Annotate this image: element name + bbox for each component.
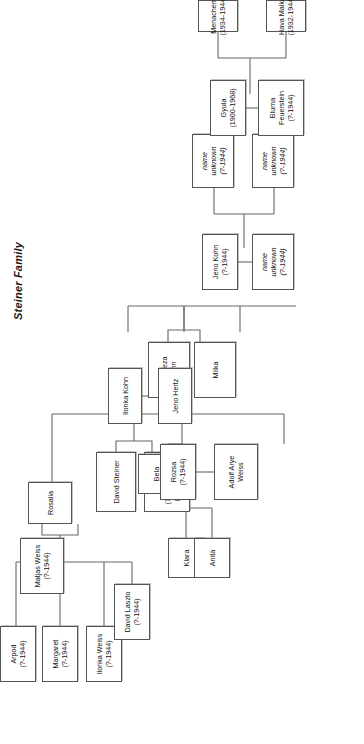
node-jeno-hertz[interactable]: Jeno Hertz: [158, 368, 192, 424]
node-name-2: unknown: [209, 147, 218, 176]
node-dates: (?-1944): [278, 248, 287, 275]
node-dates: (1934-1944): [218, 0, 227, 36]
node-dates: (?-1944): [104, 640, 113, 667]
node-name: Milka: [211, 362, 220, 379]
node-name-2: Weiss: [236, 462, 245, 481]
node-name: Matjas Weiss: [33, 545, 42, 588]
node-dates: (?-1944): [278, 147, 287, 174]
node-anita[interactable]: Anita: [194, 538, 230, 578]
node-menachem[interactable]: Menachem (1934-1944): [198, 0, 238, 32]
node-hava-malka[interactable]: Hava Malka (1932-1944): [266, 0, 306, 32]
node-dates: (?-1944): [42, 552, 51, 579]
node-ilonka-kohn[interactable]: Ilonka Kohn: [108, 368, 142, 424]
node-dates: (?-1944): [286, 94, 295, 121]
node-name-2: Feuerstein: [277, 91, 286, 125]
node-matjas-weiss[interactable]: Matjas Weiss (?-1944): [20, 538, 64, 594]
node-name: Adolf Arye: [227, 456, 236, 489]
node-name: Ilonka Weiss: [95, 634, 104, 675]
node-dates: (?-1944): [220, 248, 229, 275]
node-rozsa[interactable]: Rozsa (?-1944): [160, 444, 196, 500]
node-name: Menachem: [209, 0, 218, 34]
node-bluma-feuerstein[interactable]: Bluma Feuerstein (?-1944): [258, 80, 304, 136]
node-dates: (1900-1968): [228, 88, 237, 127]
node-jeno-kohn[interactable]: Jeno Kohn (?-1944): [202, 234, 238, 290]
node-david-laszlo[interactable]: David Laszlo (?-1944): [114, 584, 150, 640]
node-name: name: [200, 152, 209, 170]
node-adolf-arye-weiss[interactable]: Adolf Arye Weiss: [214, 444, 258, 500]
node-name: Jeno Hertz: [171, 379, 180, 414]
node-name: Klara: [182, 550, 191, 567]
node-name: Ilonka Kohn: [121, 377, 130, 415]
node-name: Jeno Kohn: [211, 245, 220, 279]
node-name: Rozsa: [169, 462, 178, 482]
node-name: name: [260, 152, 269, 170]
node-dates: (?-1944): [132, 598, 141, 625]
node-dates: (1932-1944): [286, 0, 295, 36]
node-margaret[interactable]: Margaret (?-1944): [42, 626, 78, 682]
node-arpod[interactable]: Arpod (?-1944): [0, 626, 36, 682]
node-name: David Steiner: [112, 460, 121, 503]
node-unknown-spouse[interactable]: name unknown (?-1944): [252, 234, 294, 290]
node-name: Margaret: [51, 640, 60, 669]
node-unknown-child-2[interactable]: name unknown (?-1944): [252, 134, 294, 188]
node-dates: (?-1944): [218, 147, 227, 174]
node-milka[interactable]: Milka: [194, 342, 236, 398]
node-name-2: unknown: [269, 147, 278, 176]
node-dates: (?-1944): [18, 640, 27, 667]
node-unknown-child-1[interactable]: name unknown (?-1944): [192, 134, 234, 188]
node-name: David Laszlo: [123, 591, 132, 632]
node-david-steiner[interactable]: David Steiner: [96, 452, 136, 512]
diagram-title: Steiner Family: [12, 242, 24, 320]
node-name: name: [260, 253, 269, 271]
node-name-2: unknown: [269, 248, 278, 277]
node-name: Arpod: [9, 644, 18, 663]
node-name: Anita: [208, 550, 217, 566]
node-dates: (?-1944): [178, 458, 187, 485]
node-name: Bluma: [268, 98, 277, 118]
node-name: Hava Malka: [277, 0, 286, 35]
node-name: Gyula: [219, 99, 228, 118]
node-name: Rosalia: [46, 491, 55, 515]
family-tree-canvas: Steiner Family: [0, 0, 364, 744]
node-dates: (?-1944): [60, 640, 69, 667]
node-rosalia[interactable]: Rosalia: [28, 482, 72, 524]
node-gyula[interactable]: Gyula (1900-1968): [210, 80, 246, 136]
